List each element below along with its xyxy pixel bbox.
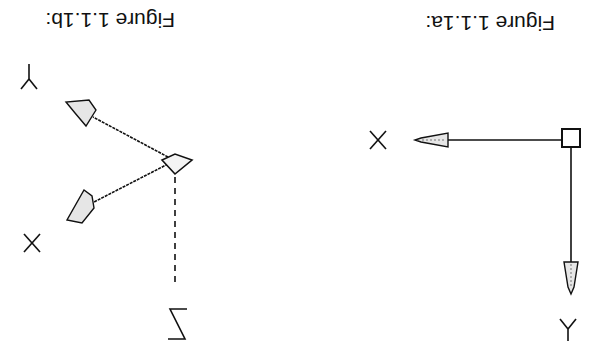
y-arrowhead-3d-icon — [66, 100, 96, 126]
z-axis-label — [168, 309, 187, 339]
y-axis-line-3d — [93, 117, 168, 157]
x-axis-line-3d — [94, 164, 168, 202]
figure-b-caption: Figure 1.1.1b: — [45, 9, 175, 32]
y-axis-label-3d — [21, 64, 37, 89]
origin-square-icon — [562, 129, 580, 147]
figure-b: Figure 1.1.1b: — [21, 9, 192, 339]
x-axis-label-3d — [24, 234, 40, 252]
diagram-canvas: Figure 1.1.1a: — [0, 0, 606, 362]
figure-a-caption: Figure 1.1.1a: — [425, 12, 555, 35]
x-arrowhead-icon — [415, 133, 448, 147]
x-arrowhead-3d-icon — [67, 190, 94, 223]
y-axis-label — [560, 319, 576, 341]
y-arrowhead-icon — [564, 262, 578, 294]
figure-a: Figure 1.1.1a: — [370, 12, 580, 341]
x-axis-label — [370, 131, 386, 149]
figures-svg: Figure 1.1.1a: — [0, 0, 606, 362]
